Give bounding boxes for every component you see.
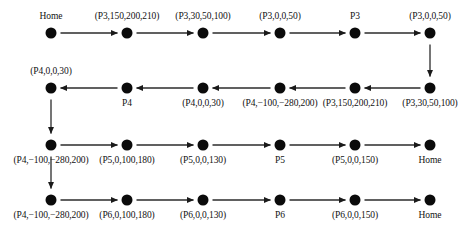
graph-node[interactable]	[198, 140, 209, 151]
graph-node[interactable]	[46, 140, 57, 151]
node-label: (P3,30,50,100)	[402, 99, 457, 109]
node-label: (P4,−100,−280,200)	[13, 156, 88, 166]
node-label: (P4,0,0,30)	[182, 99, 223, 109]
graph-node[interactable]	[350, 83, 361, 94]
graph-node[interactable]	[198, 28, 209, 39]
node-label: (P3,0,0,50)	[409, 12, 450, 22]
node-label: (P3,30,50,100)	[175, 12, 230, 22]
graph-node[interactable]	[350, 28, 361, 39]
node-label: P3	[350, 12, 360, 22]
diagram-canvas: Home(P3,150,200,210)(P3,30,50,100)(P3,0,…	[0, 0, 470, 236]
graph-node[interactable]	[425, 83, 436, 94]
graph-node[interactable]	[350, 195, 361, 206]
node-label: (P5,0,0,150)	[332, 156, 378, 166]
graph-node[interactable]	[275, 83, 286, 94]
graph-node[interactable]	[275, 28, 286, 39]
node-label: Home	[40, 12, 63, 22]
graph-node[interactable]	[275, 195, 286, 206]
graph-node[interactable]	[198, 195, 209, 206]
node-label: (P3,0,0,50)	[259, 12, 300, 22]
graph-node[interactable]	[425, 195, 436, 206]
node-label: P5	[275, 156, 285, 166]
graph-node[interactable]	[46, 195, 57, 206]
node-label: (P4,0,0,30)	[30, 67, 71, 77]
node-label: (P3,150,200,210)	[95, 12, 160, 22]
graph-node[interactable]	[275, 140, 286, 151]
node-label: (P6,0,0,150)	[332, 211, 378, 221]
graph-node[interactable]	[122, 83, 133, 94]
graph-node[interactable]	[425, 28, 436, 39]
node-label: (P3,150,200,210)	[323, 99, 388, 109]
graph-node[interactable]	[198, 83, 209, 94]
edge-layer	[0, 0, 470, 236]
node-label: (P4,−100,−280,200)	[13, 211, 88, 221]
node-label: Home	[419, 211, 442, 221]
node-label: (P5,0,0,130)	[180, 156, 226, 166]
node-label: Home	[419, 156, 442, 166]
node-label: (P6,0,100,180)	[99, 211, 154, 221]
edges-group	[51, 33, 430, 200]
graph-node[interactable]	[122, 28, 133, 39]
graph-node[interactable]	[122, 195, 133, 206]
node-label: P4	[122, 99, 132, 109]
node-label: P6	[275, 211, 285, 221]
node-label: (P4,−100,−280,200)	[242, 99, 317, 109]
graph-node[interactable]	[46, 83, 57, 94]
node-label: (P5,0,100,180)	[99, 156, 154, 166]
graph-node[interactable]	[425, 140, 436, 151]
graph-node[interactable]	[350, 140, 361, 151]
graph-node[interactable]	[122, 140, 133, 151]
graph-node[interactable]	[46, 28, 57, 39]
node-label: (P6,0,0,130)	[180, 211, 226, 221]
